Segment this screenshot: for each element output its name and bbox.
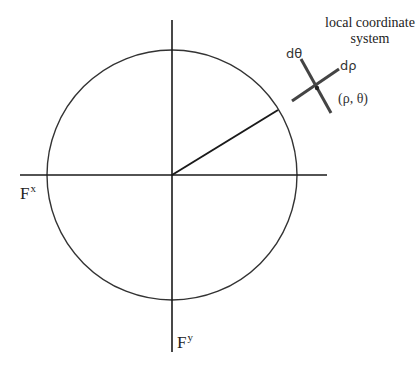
radius-line	[172, 110, 278, 175]
x-axis-label: Fx	[20, 185, 36, 202]
point-coordinates-label: (ρ, θ)	[338, 92, 368, 106]
caption-line-2: system	[318, 31, 419, 47]
polar-coordinate-diagram	[0, 0, 419, 366]
y-axis-label-base: F	[177, 333, 186, 352]
d-theta-label: dθ	[286, 47, 302, 60]
y-axis-label-superscript: y	[187, 331, 193, 343]
d-rho-label: dρ	[340, 59, 357, 72]
local-coordinate-caption: local coordinate system	[318, 15, 419, 47]
caption-line-1: local coordinate	[318, 15, 419, 31]
local-origin-point	[315, 86, 319, 90]
x-axis-label-base: F	[20, 184, 29, 203]
x-axis-label-superscript: x	[30, 182, 36, 194]
d-rho-axis	[292, 69, 339, 101]
y-axis-label: Fy	[177, 334, 193, 351]
